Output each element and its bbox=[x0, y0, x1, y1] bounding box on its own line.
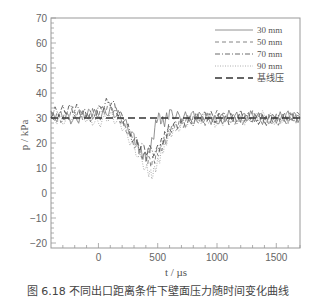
x-tick-label: 1500 bbox=[265, 252, 288, 263]
y-tick-label: −20 bbox=[30, 238, 47, 249]
legend-label: 70 mm bbox=[257, 49, 282, 59]
series-layer bbox=[51, 98, 300, 179]
legend-label: 基线压 bbox=[257, 72, 284, 83]
legend-label: 90 mm bbox=[257, 61, 282, 71]
x-axis-title: t / µs bbox=[165, 266, 187, 278]
series-line bbox=[51, 110, 300, 179]
y-tick-label: −10 bbox=[30, 213, 47, 224]
series-line bbox=[51, 98, 300, 156]
x-tick-label: 1000 bbox=[206, 252, 229, 263]
y-tick-label: 10 bbox=[36, 163, 48, 174]
figure-caption: 图 6.18 不同出口距离条件下壁面压力随时间变化曲线 bbox=[0, 282, 316, 298]
y-tick-label: 30 bbox=[36, 113, 48, 124]
x-tick-label: 0 bbox=[96, 252, 102, 263]
series-line bbox=[51, 102, 300, 167]
y-tick-label: 70 bbox=[36, 13, 48, 24]
y-axis-title: p / kPa bbox=[18, 120, 30, 151]
y-tick-label: 20 bbox=[36, 138, 48, 149]
legend-label: 30 mm bbox=[257, 25, 282, 35]
x-tick-label: 500 bbox=[149, 252, 166, 263]
y-tick-label: 40 bbox=[36, 88, 48, 99]
legend: 30 mm50 mm70 mm90 mm基线压 bbox=[215, 25, 284, 83]
y-tick-label: 0 bbox=[41, 188, 47, 199]
x-axis: 050010001500 bbox=[63, 243, 300, 263]
y-axis: 706050403020100−10−20 bbox=[30, 13, 56, 249]
legend-label: 50 mm bbox=[257, 37, 282, 47]
y-tick-label: 60 bbox=[36, 38, 48, 49]
y-tick-label: 50 bbox=[36, 63, 48, 74]
